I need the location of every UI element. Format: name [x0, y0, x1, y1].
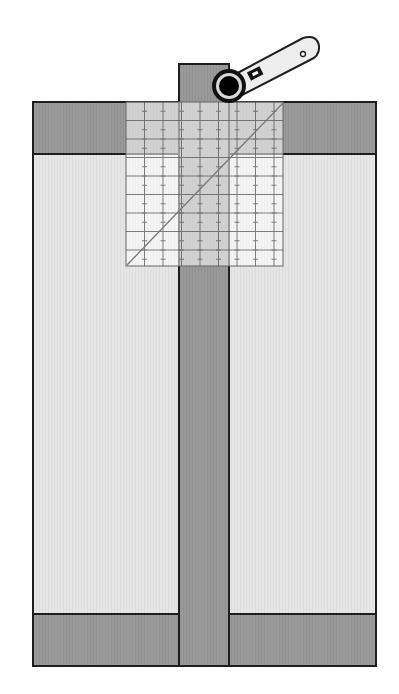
square-ruler [126, 102, 283, 266]
bottom-band-left [33, 614, 179, 666]
quilt-cutting-diagram [0, 0, 399, 694]
bottom-band-right [229, 614, 376, 666]
rotary-cutter-icon [212, 37, 319, 103]
